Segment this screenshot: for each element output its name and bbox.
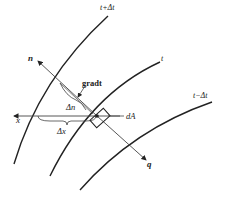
isotherm-curve-middle [50,62,160,176]
isotherm-diagram: t+Δt t t−Δt n q x gradt Δn Δx dA [0,0,227,203]
isotherm-curve-upper [14,16,108,164]
isotherm-label-middle: t [161,54,164,63]
isotherm-curve-lower [80,102,212,190]
point-marker [95,114,99,118]
x-axis-label: x [15,115,20,125]
isotherm-label-upper: t+Δt [100,3,115,12]
delta-x-label: Δx [56,126,66,136]
heat-flux-label: q [147,159,152,169]
delta-n-label: Δn [65,102,75,112]
normal-label: n [28,53,33,63]
area-element-label: dA [126,111,136,121]
isotherm-label-lower: t−Δt [193,91,208,100]
gradient-label: gradt [82,78,102,88]
